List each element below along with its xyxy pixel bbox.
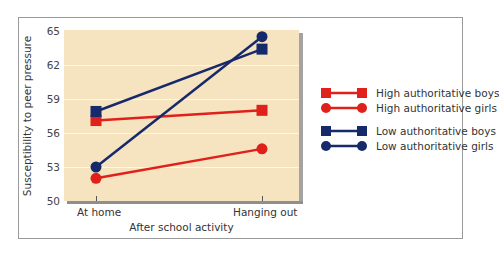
legend-square-marker-icon xyxy=(320,86,372,100)
circle-marker-icon xyxy=(91,162,102,173)
circle-marker-icon xyxy=(91,173,102,184)
circle-marker-icon xyxy=(257,31,268,42)
square-marker-icon xyxy=(257,105,268,116)
series-low-authoritative-girls xyxy=(91,31,268,172)
legend-circle-marker-icon xyxy=(320,101,372,115)
legend-label: Low authoritative girls xyxy=(376,139,493,153)
legend-square-marker-icon xyxy=(320,124,372,138)
square-marker-icon xyxy=(91,106,102,117)
legend-label: High authoritative girls xyxy=(376,101,497,115)
legend-label: High authoritative boys xyxy=(376,86,499,100)
legend-label: Low authoritative boys xyxy=(376,124,496,138)
legend-circle-marker-icon xyxy=(320,139,372,153)
circle-marker-icon xyxy=(257,143,268,154)
square-marker-icon xyxy=(257,44,268,55)
series-high-authoritative-boys xyxy=(91,105,268,126)
